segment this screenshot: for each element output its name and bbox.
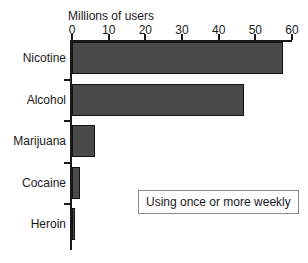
y-tick-mark-3 bbox=[64, 162, 71, 164]
y-tick-mark-4 bbox=[64, 203, 71, 205]
category-label-alcohol: Alcohol bbox=[27, 93, 66, 107]
category-label-heroin: Heroin bbox=[31, 217, 66, 231]
y-tick-mark-1 bbox=[64, 79, 71, 81]
annotation-box: Using once or more weekly bbox=[138, 190, 299, 214]
bar-nicotine bbox=[72, 42, 283, 74]
category-label-cocaine: Cocaine bbox=[22, 176, 66, 190]
bar-heroin bbox=[72, 208, 75, 240]
bar-cocaine bbox=[72, 167, 80, 199]
bar-chart: Millions of users 0102030405060 Nicotine… bbox=[0, 0, 308, 263]
bar-alcohol bbox=[72, 84, 244, 116]
category-label-marijuana: Marijuana bbox=[13, 134, 66, 148]
y-tick-mark-2 bbox=[64, 120, 71, 122]
x-axis-title: Millions of users bbox=[68, 9, 154, 23]
category-label-nicotine: Nicotine bbox=[23, 51, 66, 65]
bar-marijuana bbox=[72, 125, 95, 157]
